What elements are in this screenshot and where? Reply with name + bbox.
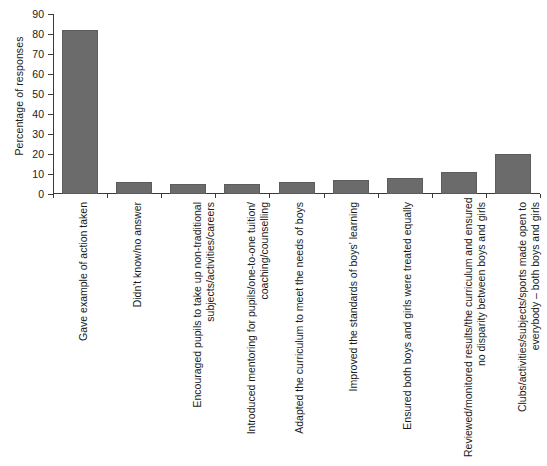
bar bbox=[333, 180, 369, 194]
y-tick-label: 0 bbox=[20, 189, 44, 199]
y-tick-label: 40 bbox=[20, 109, 44, 119]
x-tick-mark bbox=[432, 194, 433, 198]
y-tick-label: 50 bbox=[20, 89, 44, 99]
y-tick-label: 10 bbox=[20, 169, 44, 179]
bar bbox=[224, 184, 260, 194]
category-label-line: Introduced mentoring for pupils/one-to-o… bbox=[245, 202, 258, 457]
category-label-line: subjects/activities/careers bbox=[204, 202, 217, 457]
category-label-line: Ensured both boys and girls were treated… bbox=[401, 202, 414, 457]
x-tick-mark bbox=[486, 194, 487, 198]
y-tick-label: 30 bbox=[20, 129, 44, 139]
x-tick-mark bbox=[269, 194, 270, 198]
y-tick-label: 70 bbox=[20, 49, 44, 59]
category-label-line: everybody – both boys and girls bbox=[528, 202, 541, 457]
y-tick-label: 20 bbox=[20, 149, 44, 159]
category-label-line: Adapted the curriculum to meet the needs… bbox=[293, 202, 306, 457]
x-tick-mark bbox=[540, 194, 541, 198]
bar bbox=[170, 184, 206, 194]
x-tick-mark bbox=[161, 194, 162, 198]
bar bbox=[495, 154, 531, 194]
category-label-line: Clubs/activities/subjects/sports made op… bbox=[516, 202, 529, 457]
x-tick-mark bbox=[53, 194, 54, 198]
category-label-line: Reviewed/monitored results/the curriculu… bbox=[462, 202, 475, 457]
x-tick-mark bbox=[107, 194, 108, 198]
category-label-line: coaching/counselling bbox=[258, 202, 271, 457]
category-label-line: Improved the standards of boys' learning bbox=[347, 202, 360, 457]
category-label-line: Gave example of action taken bbox=[77, 202, 90, 457]
category-label-line: Encouraged pupils to take up non-traditi… bbox=[191, 202, 204, 457]
plot-area bbox=[53, 14, 540, 194]
y-tick-label: 60 bbox=[20, 69, 44, 79]
x-tick-mark bbox=[324, 194, 325, 198]
category-label-line: no disparity between boys and girls bbox=[474, 202, 487, 457]
x-tick-mark bbox=[378, 194, 379, 198]
bar-chart: Percentage of responses 9080706050403020… bbox=[0, 0, 547, 466]
bar bbox=[387, 178, 423, 194]
bar bbox=[441, 172, 477, 194]
bar bbox=[279, 182, 315, 194]
y-tick-label: 80 bbox=[20, 29, 44, 39]
category-label-line: Didn't know/no answer bbox=[131, 202, 144, 457]
y-tick-label: 90 bbox=[20, 9, 44, 19]
bar bbox=[116, 182, 152, 194]
x-tick-mark bbox=[215, 194, 216, 198]
bar bbox=[62, 30, 98, 194]
